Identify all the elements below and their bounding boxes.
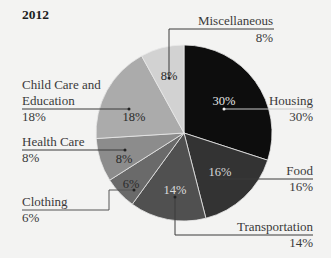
slice-pct-child-care: 18% <box>123 110 146 124</box>
label-housing: Housing <box>269 93 314 108</box>
value-health-care: 8% <box>22 150 40 165</box>
label-transportation: Transportation <box>237 219 314 234</box>
callout-clothing: Clothing 6% 6% <box>22 177 139 225</box>
value-transportation: 14% <box>289 235 313 250</box>
value-child-care: 18% <box>22 109 46 124</box>
value-miscellaneous: 8% <box>256 30 274 45</box>
slice-pct-clothing: 6% <box>123 177 140 191</box>
label-health-care: Health Care <box>22 134 85 149</box>
value-housing: 30% <box>289 109 313 124</box>
label-child-care-line2: Education <box>22 93 75 108</box>
label-child-care-line1: Child Care and <box>22 77 101 92</box>
label-miscellaneous: Miscellaneous <box>198 13 273 28</box>
slice-pct-health-care: 8% <box>116 152 133 166</box>
slice-pct-miscellaneous: 8% <box>161 69 178 83</box>
chart-title: 2012 <box>22 7 49 22</box>
pie-chart: 2012 Miscellaneous 8% 8% 30% Housing 30%… <box>0 0 331 258</box>
label-clothing: Clothing <box>22 194 68 209</box>
value-clothing: 6% <box>22 210 40 225</box>
value-food: 16% <box>289 179 313 194</box>
label-food: Food <box>286 163 313 178</box>
slice-pct-transportation: 14% <box>164 183 187 197</box>
slice-pct-food: 16% <box>209 165 232 179</box>
slice-pct-housing: 30% <box>213 94 236 108</box>
